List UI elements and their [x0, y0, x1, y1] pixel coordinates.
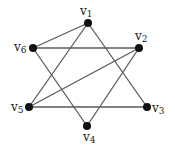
edges: [29, 23, 147, 126]
edge-v2-v5: [29, 48, 139, 107]
label-v6: v6: [13, 40, 27, 55]
node-v1: [84, 19, 92, 27]
label-v4: v4: [82, 130, 96, 145]
node-v5: [25, 103, 33, 111]
node-v4: [83, 122, 91, 130]
edge-v6-v4: [33, 48, 87, 126]
node-v2: [135, 44, 143, 52]
node-v6: [29, 44, 37, 52]
label-v2: v2: [134, 29, 148, 44]
label-v1: v1: [79, 4, 93, 19]
edge-v1-v5: [29, 23, 88, 107]
nodes: [25, 19, 151, 130]
label-v5: v5: [10, 100, 24, 115]
node-v3: [143, 103, 151, 111]
graph-diagram: v1v2v3v4v5v6: [0, 0, 175, 151]
label-v3: v3: [151, 101, 165, 116]
